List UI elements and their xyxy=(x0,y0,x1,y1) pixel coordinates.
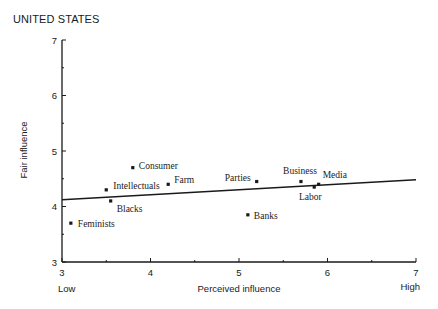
y-tick-label: 7 xyxy=(52,35,57,46)
point-label-business: Business xyxy=(283,166,317,176)
point-label-intellectuals: Intellectuals xyxy=(113,181,160,191)
y-tick-label: 4 xyxy=(52,201,57,212)
scatter-chart: 3456734567Perceived influenceLowHighFair… xyxy=(0,0,438,309)
point-label-media: Media xyxy=(323,170,348,180)
data-point-media xyxy=(317,183,320,186)
y-tick-label: 5 xyxy=(52,146,57,157)
data-point-banks xyxy=(246,213,249,216)
data-point-blacks xyxy=(109,199,112,202)
y-tick-label: 3 xyxy=(52,257,57,268)
x-high-label: High xyxy=(400,281,420,292)
point-label-farm: Farm xyxy=(174,175,195,185)
point-label-labor: Labor xyxy=(299,192,323,202)
y-tick-label: 6 xyxy=(52,90,57,101)
point-label-banks: Banks xyxy=(254,211,278,221)
data-point-intellectuals xyxy=(105,188,108,191)
data-point-labor xyxy=(313,185,316,188)
data-point-business xyxy=(299,180,302,183)
x-tick-label: 7 xyxy=(413,267,418,278)
data-point-feminists xyxy=(69,222,72,225)
y-axis-label: Fair influence xyxy=(18,121,29,178)
x-tick-label: 4 xyxy=(148,267,153,278)
x-tick-label: 3 xyxy=(59,267,64,278)
point-label-parties: Parties xyxy=(225,173,251,183)
data-point-parties xyxy=(255,180,258,183)
x-low-label: Low xyxy=(58,283,76,294)
x-tick-label: 5 xyxy=(236,267,241,278)
point-label-feminists: Feminists xyxy=(78,219,115,229)
point-label-consumer: Consumer xyxy=(139,161,179,171)
data-point-farm xyxy=(167,183,170,186)
point-label-blacks: Blacks xyxy=(117,204,143,214)
x-axis-label: Perceived influence xyxy=(198,283,281,294)
data-point-consumer xyxy=(131,166,134,169)
x-tick-label: 6 xyxy=(325,267,330,278)
